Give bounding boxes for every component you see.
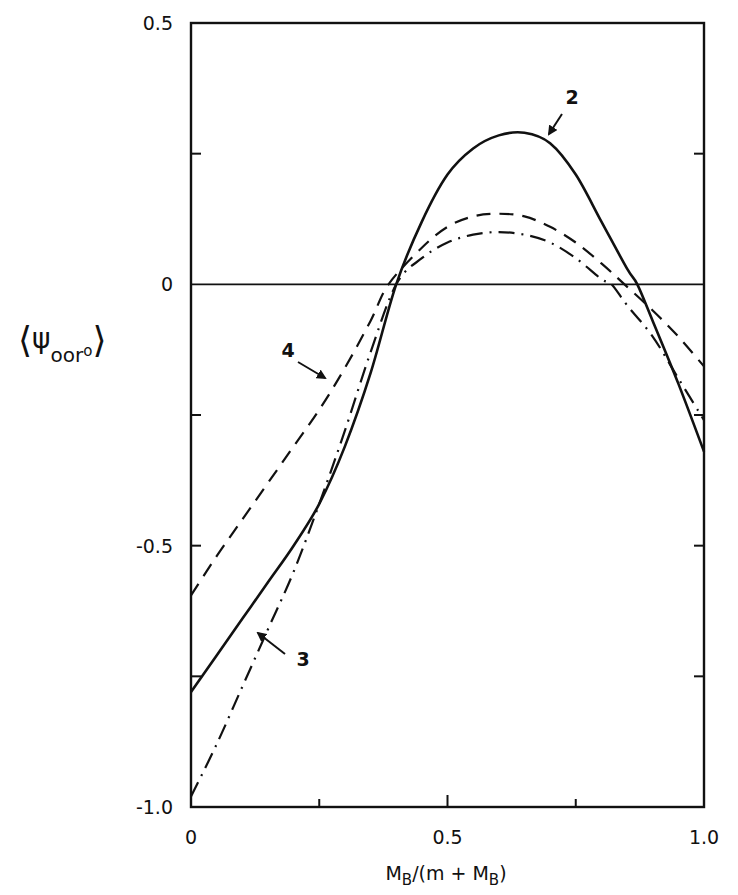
y-label-close: ⟩ <box>92 319 106 360</box>
y-label-sup: o <box>83 342 92 360</box>
curve-annotations: 234 <box>258 86 579 670</box>
x-axis-label: MB/(m + MB) <box>385 862 506 889</box>
plot-frame <box>191 23 704 807</box>
plot-border <box>191 23 704 807</box>
arrow-icon <box>549 114 562 134</box>
curve-3 <box>191 232 704 796</box>
y-tick-label: 0 <box>161 273 173 295</box>
y-label-psi: ψ <box>32 322 50 355</box>
y-tick-label: -0.5 <box>136 535 173 557</box>
curve-label-4: 4 <box>281 339 294 361</box>
x-label-end: ) <box>499 862 506 884</box>
curve-2 <box>191 132 704 692</box>
x-tick-label: 0.5 <box>432 826 462 848</box>
axis-ticks <box>191 154 704 807</box>
y-tick-label: 0.5 <box>143 12 173 34</box>
y-label-sub: oor <box>51 343 84 367</box>
data-curves <box>191 132 704 796</box>
x-tick-label: 1.0 <box>689 826 719 848</box>
x-label-main: M <box>385 862 401 884</box>
curve-label-3: 3 <box>296 648 309 670</box>
y-axis-label: ⟨ψooro⟩ <box>18 319 106 367</box>
y-label-open: ⟨ <box>18 319 32 360</box>
x-label-sub2: B <box>489 871 499 889</box>
curve-label-2: 2 <box>565 86 578 108</box>
x-label-sub1: B <box>402 871 412 889</box>
tick-labels: 00.51.0-1.0-0.500.5 <box>136 12 719 848</box>
arrow-icon <box>298 362 325 378</box>
y-tick-label: -1.0 <box>136 796 173 818</box>
chart: 00.51.0-1.0-0.500.5 234 MB/(m + MB) ⟨ψoo… <box>0 0 738 895</box>
x-tick-label: 0 <box>185 826 197 848</box>
x-label-mid: /(m + M <box>412 862 489 884</box>
